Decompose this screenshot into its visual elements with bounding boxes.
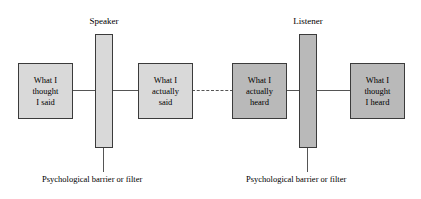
box-line-1: What I [34,75,57,86]
connector-listener-barrier-to-thought-heard [315,90,352,91]
box-line-3: I heard [366,97,390,108]
connector-speaker-barrier-to-actually-said [111,90,140,91]
box-line-3: I said [36,97,55,108]
box-line-1: What I [366,75,389,86]
connector-thought-said-to-speaker-barrier [72,90,97,91]
box-what-i-actually-said: What I actually said [138,63,193,119]
box-line-2: actually [246,86,273,97]
box-line-2: thought [365,86,391,97]
box-what-i-thought-i-said: What I thought I said [18,63,73,119]
box-line-2: thought [33,86,59,97]
box-line-1: What I [248,75,271,86]
communication-barrier-diagram: Speaker Listener What I thought I said W… [0,0,421,199]
caption-listener-barrier: Psychological barrier or filter [246,174,346,184]
leader-line-listener-caption [307,147,308,172]
box-what-i-actually-heard: What I actually heard [232,63,287,119]
box-line-3: heard [250,97,269,108]
box-what-i-thought-i-heard: What I thought I heard [350,63,405,119]
leader-line-speaker-caption [103,147,104,172]
caption-speaker-barrier: Psychological barrier or filter [42,174,142,184]
listener-barrier-bar [299,34,317,148]
connector-dashed-transmission-gap [192,90,233,91]
box-line-2: actually [152,86,179,97]
speaker-barrier-bar [95,34,113,148]
box-line-3: said [159,97,173,108]
box-line-1: What I [154,75,177,86]
listener-label: Listener [268,16,348,26]
speaker-label: Speaker [64,16,144,26]
